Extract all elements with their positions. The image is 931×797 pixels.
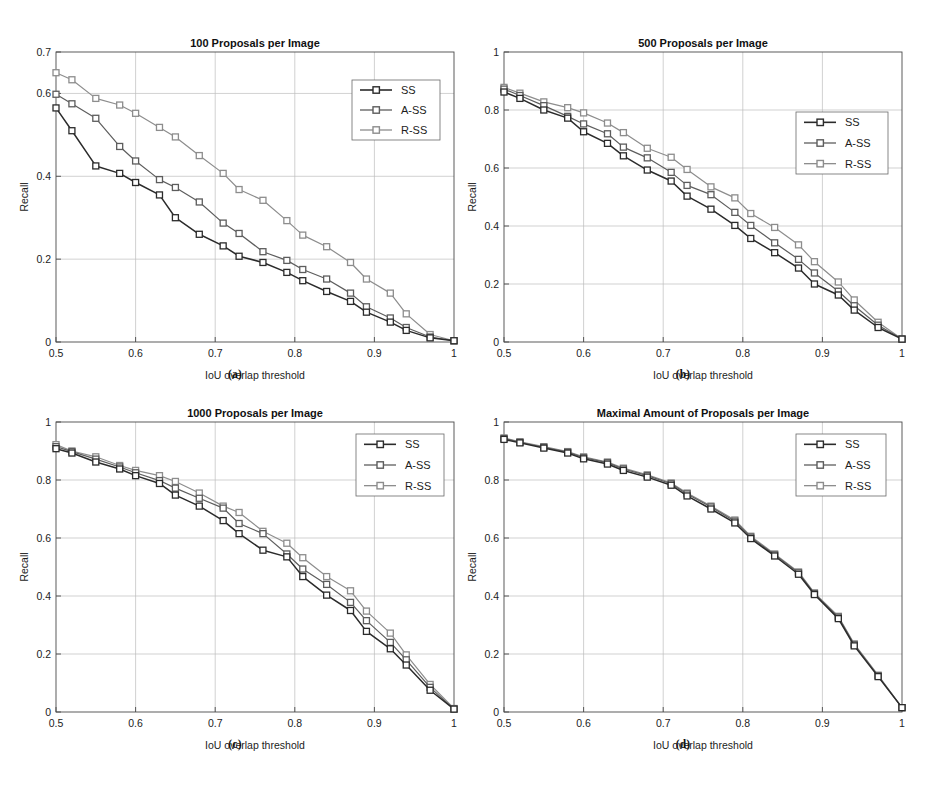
series-marker-ss <box>363 309 369 315</box>
series-marker-ss <box>501 436 507 442</box>
series-marker-a-ss <box>172 184 178 190</box>
series-marker-ss <box>260 259 266 265</box>
series-marker-a-ss <box>93 115 99 121</box>
series-marker-a-ss <box>156 177 162 183</box>
series-marker-a-ss <box>300 267 306 273</box>
x-tick-label: 1 <box>899 347 905 359</box>
series-marker-ss <box>324 288 330 294</box>
subcaption-a: (a) <box>0 368 470 380</box>
legend-label-r-ss: R-SS <box>401 124 427 136</box>
series-marker-ss <box>899 705 905 711</box>
x-tick-label: 0.5 <box>497 347 512 359</box>
series-marker-ss <box>541 107 547 113</box>
series-marker-ss <box>851 307 857 313</box>
series-marker-r-ss <box>300 555 306 561</box>
legend-marker-r-ss <box>817 160 823 166</box>
series-marker-a-ss <box>133 158 139 164</box>
series-marker-a-ss <box>348 599 354 605</box>
series-marker-r-ss <box>196 153 202 159</box>
series-marker-ss <box>172 215 178 221</box>
series-marker-a-ss <box>172 485 178 491</box>
series-marker-r-ss <box>565 105 571 111</box>
series-marker-r-ss <box>604 120 610 126</box>
series-marker-ss <box>668 178 674 184</box>
y-tick-label: 0.2 <box>36 648 51 660</box>
series-marker-r-ss <box>684 166 690 172</box>
x-tick-label: 0.9 <box>367 347 382 359</box>
series-marker-a-ss <box>684 182 690 188</box>
panel-a: 100 Proposals per Image0.50.60.70.80.910… <box>0 36 470 381</box>
y-axis-title: Recall <box>18 182 30 211</box>
series-marker-ss <box>156 480 162 486</box>
series-marker-r-ss <box>220 170 226 176</box>
series-marker-a-ss <box>236 230 242 236</box>
series-marker-r-ss <box>796 242 802 248</box>
legend-marker-a-ss <box>377 462 383 468</box>
panel-title: 100 Proposals per Image <box>190 37 320 49</box>
series-marker-ss <box>835 292 841 298</box>
y-tick-label: 0 <box>493 336 499 348</box>
series-marker-r-ss <box>363 608 369 614</box>
series-marker-ss <box>732 520 738 526</box>
series-marker-ss <box>644 167 650 173</box>
series-marker-r-ss <box>93 95 99 101</box>
y-tick-label: 0.2 <box>484 278 499 290</box>
series-marker-r-ss <box>300 232 306 238</box>
x-tick-label: 0.8 <box>735 347 750 359</box>
series-marker-ss <box>220 243 226 249</box>
series-marker-a-ss <box>260 531 266 537</box>
series-marker-a-ss <box>796 256 802 262</box>
series-marker-r-ss <box>117 102 123 108</box>
series-marker-a-ss <box>811 270 817 276</box>
series-marker-ss <box>811 592 817 598</box>
y-tick-label: 0.6 <box>36 532 51 544</box>
series-marker-a-ss <box>236 521 242 527</box>
subcaption-d: (d) <box>448 738 918 750</box>
y-tick-label: 1 <box>493 46 499 58</box>
series-marker-a-ss <box>284 257 290 263</box>
series-marker-ss <box>69 128 75 134</box>
series-marker-a-ss <box>300 566 306 572</box>
series-marker-ss <box>541 445 547 451</box>
legend-marker-a-ss <box>373 107 379 113</box>
legend-label-r-ss: R-SS <box>845 480 871 492</box>
series-marker-ss <box>69 450 75 456</box>
legend-marker-ss <box>817 119 823 125</box>
series-marker-a-ss <box>220 505 226 511</box>
y-tick-label: 0.6 <box>36 87 51 99</box>
series-marker-ss <box>772 553 778 559</box>
x-tick-label: 0.9 <box>815 717 830 729</box>
series-marker-r-ss <box>363 276 369 282</box>
legend-label-a-ss: A-SS <box>845 137 871 149</box>
y-tick-label: 0.2 <box>36 253 51 265</box>
y-axis-title: Recall <box>18 552 30 581</box>
series-marker-ss <box>581 456 587 462</box>
series-marker-ss <box>565 115 571 121</box>
series-marker-ss <box>53 446 59 452</box>
series-marker-ss <box>708 206 714 212</box>
legend-marker-ss <box>373 87 379 93</box>
panel-c: 1000 Proposals per Image0.50.60.70.80.91… <box>0 406 470 751</box>
y-tick-label: 0.8 <box>484 474 499 486</box>
series-marker-a-ss <box>708 192 714 198</box>
legend-marker-r-ss <box>373 127 379 133</box>
y-tick-label: 0.7 <box>36 46 51 58</box>
x-tick-label: 0.5 <box>49 717 64 729</box>
panel-a-plot: 100 Proposals per Image0.50.60.70.80.910… <box>0 36 470 381</box>
series-marker-a-ss <box>220 220 226 226</box>
legend-label-ss: SS <box>401 84 416 96</box>
x-tick-label: 0.7 <box>208 347 223 359</box>
series-marker-r-ss <box>581 110 587 116</box>
y-axis-title: Recall <box>466 182 478 211</box>
series-marker-r-ss <box>620 130 626 136</box>
panel-b-plot: 500 Proposals per Image0.50.60.70.80.910… <box>448 36 918 381</box>
series-marker-ss <box>133 473 139 479</box>
series-marker-ss <box>363 628 369 634</box>
legend-label-a-ss: A-SS <box>845 459 871 471</box>
series-marker-r-ss <box>284 218 290 224</box>
series-marker-r-ss <box>348 259 354 265</box>
x-tick-label: 0.5 <box>497 717 512 729</box>
series-marker-a-ss <box>644 155 650 161</box>
y-tick-label: 0 <box>493 706 499 718</box>
series-marker-r-ss <box>324 244 330 250</box>
